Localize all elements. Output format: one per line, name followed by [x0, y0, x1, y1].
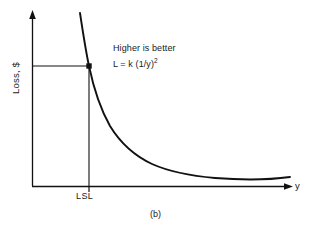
- formula-exponent: 2: [154, 57, 158, 64]
- plot-canvas: [0, 0, 311, 232]
- x-axis-label: y: [295, 181, 300, 191]
- figure-caption: (b): [0, 210, 311, 219]
- formula-base: L = k (1/y): [113, 59, 154, 69]
- lsl-intersection-marker: [86, 63, 91, 68]
- annotation-loss-formula: L = k (1/y)2: [113, 58, 158, 69]
- loss-function-figure: Loss, $ y LSL Higher is better L = k (1/…: [0, 0, 311, 232]
- x-axis-tick-label-lsl: LSL: [76, 192, 93, 201]
- loss-curve: [80, 13, 290, 179]
- y-axis-label: Loss, $: [11, 80, 21, 94]
- x-axis-arrow-icon: [284, 183, 293, 190]
- y-axis-arrow-icon: [29, 10, 36, 19]
- annotation-higher-is-better: Higher is better: [113, 44, 176, 53]
